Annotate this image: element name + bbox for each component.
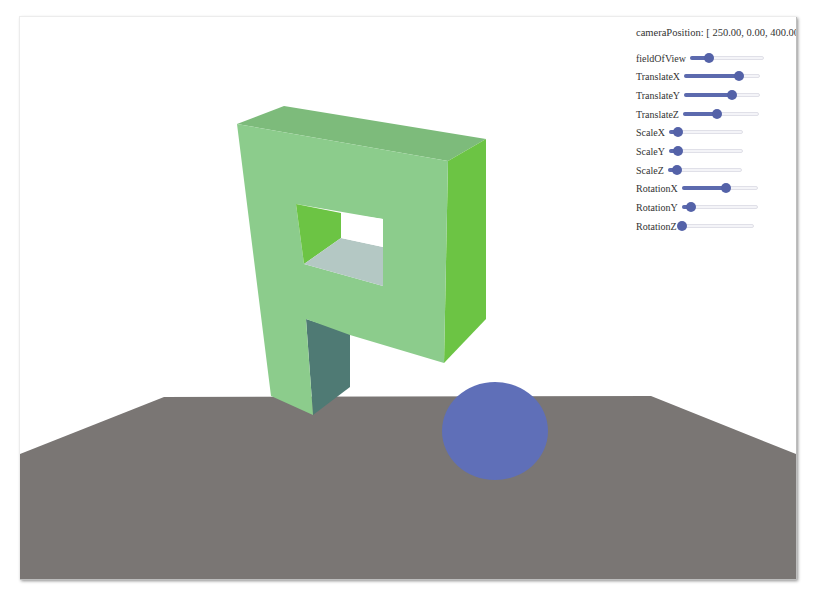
slider-thumb[interactable] bbox=[721, 183, 731, 193]
slider-fill bbox=[682, 186, 726, 190]
control-scalez: ScaleZ bbox=[636, 163, 742, 177]
control-label: TranslateZ bbox=[636, 109, 679, 120]
slider-fill bbox=[684, 74, 739, 78]
slider-thumb[interactable] bbox=[672, 165, 682, 175]
slider-thumb[interactable] bbox=[673, 127, 683, 137]
canvas-frame: cameraPosition: [ 250.00, 0.00, 400.00] … bbox=[19, 16, 796, 579]
slider-thumb[interactable] bbox=[686, 202, 696, 212]
slider-thumb[interactable] bbox=[712, 109, 722, 119]
control-rotationz: RotationZ bbox=[636, 219, 754, 233]
control-label: ScaleX bbox=[636, 127, 665, 138]
translatez-slider[interactable] bbox=[683, 107, 759, 121]
control-label: fieldOfView bbox=[636, 53, 686, 64]
control-rotationy: RotationY bbox=[636, 200, 758, 214]
ground-plane bbox=[20, 396, 796, 579]
slider-fill bbox=[684, 93, 732, 97]
control-scalex: ScaleX bbox=[636, 125, 743, 139]
rotationz-slider[interactable] bbox=[681, 219, 754, 233]
slider-thumb[interactable] bbox=[673, 146, 683, 156]
control-scaley: ScaleY bbox=[636, 144, 743, 158]
translatex-slider[interactable] bbox=[684, 69, 760, 83]
fieldofview-slider[interactable] bbox=[690, 51, 764, 65]
control-label: ScaleY bbox=[636, 146, 665, 157]
slider-thumb[interactable] bbox=[734, 71, 744, 81]
scalex-slider[interactable] bbox=[669, 125, 743, 139]
rotationy-slider[interactable] bbox=[682, 200, 758, 214]
control-translatez: TranslateZ bbox=[636, 107, 759, 121]
letter-p-right-face bbox=[444, 139, 486, 363]
slider-track bbox=[681, 224, 754, 228]
slider-thumb[interactable] bbox=[727, 90, 737, 100]
control-fieldofview: fieldOfView bbox=[636, 51, 764, 65]
scalez-slider[interactable] bbox=[668, 163, 742, 177]
control-label: ScaleZ bbox=[636, 165, 664, 176]
control-translatey: TranslateY bbox=[636, 88, 760, 102]
translatey-slider[interactable] bbox=[684, 88, 760, 102]
slider-thumb[interactable] bbox=[704, 53, 714, 63]
control-label: TranslateX bbox=[636, 71, 680, 82]
control-rotationx: RotationX bbox=[636, 181, 758, 195]
sphere bbox=[442, 382, 548, 480]
control-label: TranslateY bbox=[636, 90, 680, 101]
control-translatex: TranslateX bbox=[636, 69, 760, 83]
rotationx-slider[interactable] bbox=[682, 181, 758, 195]
control-label: RotationZ bbox=[636, 221, 677, 232]
control-label: RotationY bbox=[636, 202, 678, 213]
control-label: RotationX bbox=[636, 183, 678, 194]
scaley-slider[interactable] bbox=[669, 144, 743, 158]
camera-position-readout: cameraPosition: [ 250.00, 0.00, 400.00] bbox=[636, 27, 796, 38]
slider-thumb[interactable] bbox=[677, 221, 687, 231]
